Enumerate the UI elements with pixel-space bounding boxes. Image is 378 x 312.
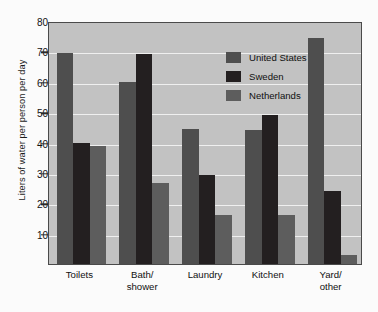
legend-item: Netherlands xyxy=(226,87,307,104)
x-axis-tick-label-line: Toilets xyxy=(44,269,114,281)
bar xyxy=(182,129,199,264)
legend-swatch xyxy=(226,90,241,101)
bar-chart-figure: Liters of water per person per day 10203… xyxy=(0,0,378,312)
bar xyxy=(90,146,107,264)
x-axis-tick-label: Kitchen xyxy=(233,269,303,281)
legend-label: Netherlands xyxy=(249,90,301,101)
x-axis-tick-label: Laundry xyxy=(170,269,240,281)
bar xyxy=(215,215,232,264)
bar xyxy=(152,183,169,264)
plot-area: United StatesSwedenNetherlands xyxy=(48,22,362,265)
y-axis-tick-mark xyxy=(41,52,48,53)
x-axis-tick-label-line: shower xyxy=(107,281,177,293)
x-axis-tick-label: Yard/other xyxy=(296,269,366,292)
bar xyxy=(245,130,262,264)
x-axis-tick-label-line: other xyxy=(296,281,366,293)
legend-item: United States xyxy=(226,49,307,66)
legend-label: United States xyxy=(249,52,307,63)
bar xyxy=(57,53,74,264)
x-axis-tick-label-line: Kitchen xyxy=(233,269,303,281)
y-axis-tick-mark xyxy=(41,143,48,144)
bar xyxy=(278,215,295,264)
bar xyxy=(262,115,279,264)
y-axis-tick-mark xyxy=(41,173,48,174)
y-axis-tick-mark xyxy=(41,204,48,205)
bar xyxy=(73,143,90,264)
legend-swatch xyxy=(226,71,241,82)
bar xyxy=(119,82,136,264)
chart-legend: United StatesSwedenNetherlands xyxy=(226,49,307,106)
legend-item: Sweden xyxy=(226,68,307,85)
x-axis-tick-label-line: Bath/ xyxy=(107,269,177,281)
y-axis-tick-label: 80 xyxy=(22,17,48,28)
bar xyxy=(324,191,341,264)
legend-swatch xyxy=(226,52,241,63)
y-axis-tick-mark xyxy=(41,112,48,113)
legend-label: Sweden xyxy=(249,71,284,82)
bar xyxy=(341,255,358,264)
x-axis-tick-label-line: Yard/ xyxy=(296,269,366,281)
y-axis-tick-mark xyxy=(41,82,48,83)
x-axis-tick-label-line: Laundry xyxy=(170,269,240,281)
x-axis-tick-label: Toilets xyxy=(44,269,114,281)
bar xyxy=(136,54,153,264)
bar xyxy=(199,175,216,264)
x-axis-tick-label: Bath/shower xyxy=(107,269,177,292)
bar xyxy=(308,38,325,264)
y-axis-tick-mark xyxy=(41,234,48,235)
